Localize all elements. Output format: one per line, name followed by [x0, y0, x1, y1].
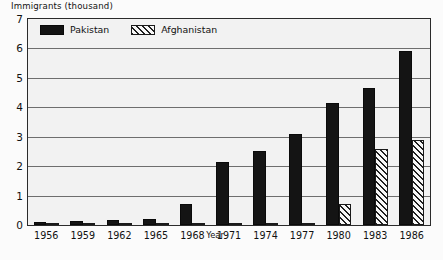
x-axis-tick-label: 1986 — [400, 230, 424, 241]
x-axis-title: Year — [206, 230, 224, 240]
legend-label: Afghanistan — [161, 24, 217, 35]
x-axis-tick-label: 1956 — [34, 230, 58, 241]
legend-entry-pakistan: Pakistan — [40, 24, 109, 35]
x-axis-tick-label: 1983 — [363, 230, 387, 241]
bar-pakistan-1983 — [363, 88, 376, 225]
bar-afghanistan-1986 — [412, 140, 425, 225]
gridline — [28, 78, 430, 79]
plot-area: PakistanAfghanistan 01234567195619591962… — [27, 18, 431, 226]
x-axis-tick-label: 1959 — [71, 230, 95, 241]
y-axis-tick-label: 0 — [16, 219, 23, 231]
chart-title: Immigrants (thousand) — [11, 1, 113, 11]
x-axis-tick-label: 1977 — [290, 230, 314, 241]
bar-afghanistan-1980 — [339, 204, 352, 225]
bar-afghanistan-1974 — [266, 223, 279, 225]
chart-legend: PakistanAfghanistan — [40, 24, 217, 35]
legend-entry-afghanistan: Afghanistan — [131, 24, 217, 35]
bar-afghanistan-1983 — [375, 149, 388, 226]
bar-afghanistan-1968 — [192, 223, 205, 225]
x-axis-tick-label: 1974 — [253, 230, 277, 241]
bar-afghanistan-1971 — [229, 223, 242, 225]
immigrants-bar-chart: Immigrants (thousand) PakistanAfghanista… — [0, 0, 443, 260]
bar-afghanistan-1962 — [119, 223, 132, 225]
x-axis-tick-label: 1968 — [180, 230, 204, 241]
x-axis-tick-label: 1965 — [144, 230, 168, 241]
y-axis-tick-label: 4 — [16, 101, 23, 113]
bar-afghanistan-1965 — [156, 223, 169, 225]
x-axis-tick-label: 1962 — [107, 230, 131, 241]
bar-pakistan-1959 — [70, 221, 83, 225]
y-axis-tick-label: 2 — [16, 160, 23, 172]
bar-afghanistan-1956 — [46, 223, 59, 225]
y-axis-tick-label: 1 — [16, 190, 23, 202]
bar-afghanistan-1959 — [83, 223, 96, 225]
gridline — [28, 48, 430, 49]
hatched-swatch — [131, 25, 155, 35]
bar-pakistan-1980 — [326, 103, 339, 225]
solid-black-swatch — [40, 25, 64, 35]
bar-afghanistan-1977 — [302, 223, 315, 225]
bar-pakistan-1977 — [289, 134, 302, 225]
bar-pakistan-1962 — [107, 220, 120, 225]
y-axis-tick-label: 6 — [16, 42, 23, 54]
bar-pakistan-1956 — [34, 222, 47, 225]
y-axis-tick-label: 5 — [16, 72, 23, 84]
bar-pakistan-1968 — [180, 204, 193, 225]
bar-pakistan-1965 — [143, 219, 156, 225]
bar-pakistan-1971 — [216, 162, 229, 225]
x-axis-tick-label: 1980 — [326, 230, 350, 241]
bar-pakistan-1974 — [253, 151, 266, 225]
y-axis-tick-label: 7 — [16, 13, 23, 25]
y-axis-tick-label: 3 — [16, 131, 23, 143]
bar-pakistan-1986 — [399, 51, 412, 225]
legend-label: Pakistan — [70, 24, 109, 35]
